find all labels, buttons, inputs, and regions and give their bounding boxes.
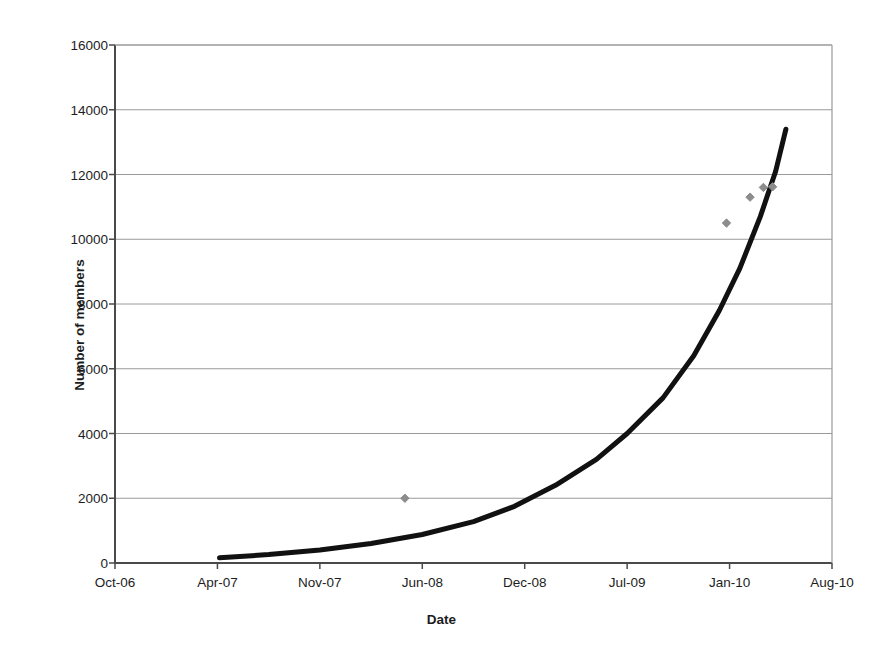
data-point-marker — [722, 219, 730, 227]
chart-title-remnant-text: · · · — [431, 0, 452, 1]
x-axis-tick-label: Apr-07 — [175, 575, 259, 590]
data-point-marker — [746, 193, 754, 201]
x-axis-tick-label: Nov-07 — [278, 575, 362, 590]
trend-line — [219, 129, 785, 558]
y-axis-tick-label: 10000 — [50, 232, 108, 247]
x-axis-tick-label: Aug-10 — [790, 575, 874, 590]
x-axis-tick-label: Dec-08 — [483, 575, 567, 590]
y-axis-tick-label: 0 — [50, 556, 108, 571]
chart-title-remnant: · · · — [0, 0, 883, 22]
x-axis-tick-label: Jan-10 — [688, 575, 772, 590]
y-axis-tick-label: 6000 — [50, 361, 108, 376]
x-axis-tick-label: Jun-08 — [380, 575, 464, 590]
y-axis-tick-label: 16000 — [50, 38, 108, 53]
gridlines — [115, 45, 832, 498]
y-axis-tick-label: 8000 — [50, 297, 108, 312]
y-axis-tick-label: 2000 — [50, 491, 108, 506]
data-point-marker — [401, 494, 409, 502]
y-axis-tick-labels: 0200040006000800010000120001400016000 — [46, 0, 108, 649]
series-line-1 — [219, 129, 785, 558]
x-axis-tick-label: Oct-06 — [73, 575, 157, 590]
x-axis-tick-label: Jul-09 — [585, 575, 669, 590]
x-axis-title: Date — [0, 612, 883, 627]
y-axis-tick-label: 4000 — [50, 426, 108, 441]
data-point-marker — [759, 183, 767, 191]
y-axis-tick-label: 12000 — [50, 167, 108, 182]
chart-figure: · · · Number of members Date 02000400060… — [0, 0, 883, 649]
data-point-markers — [401, 183, 777, 503]
plot-area — [0, 0, 883, 649]
y-axis-tick-label: 14000 — [50, 102, 108, 117]
x-axis-tick-labels: Oct-06Apr-07Nov-07Jun-08Dec-08Jul-09Jan-… — [0, 575, 883, 599]
